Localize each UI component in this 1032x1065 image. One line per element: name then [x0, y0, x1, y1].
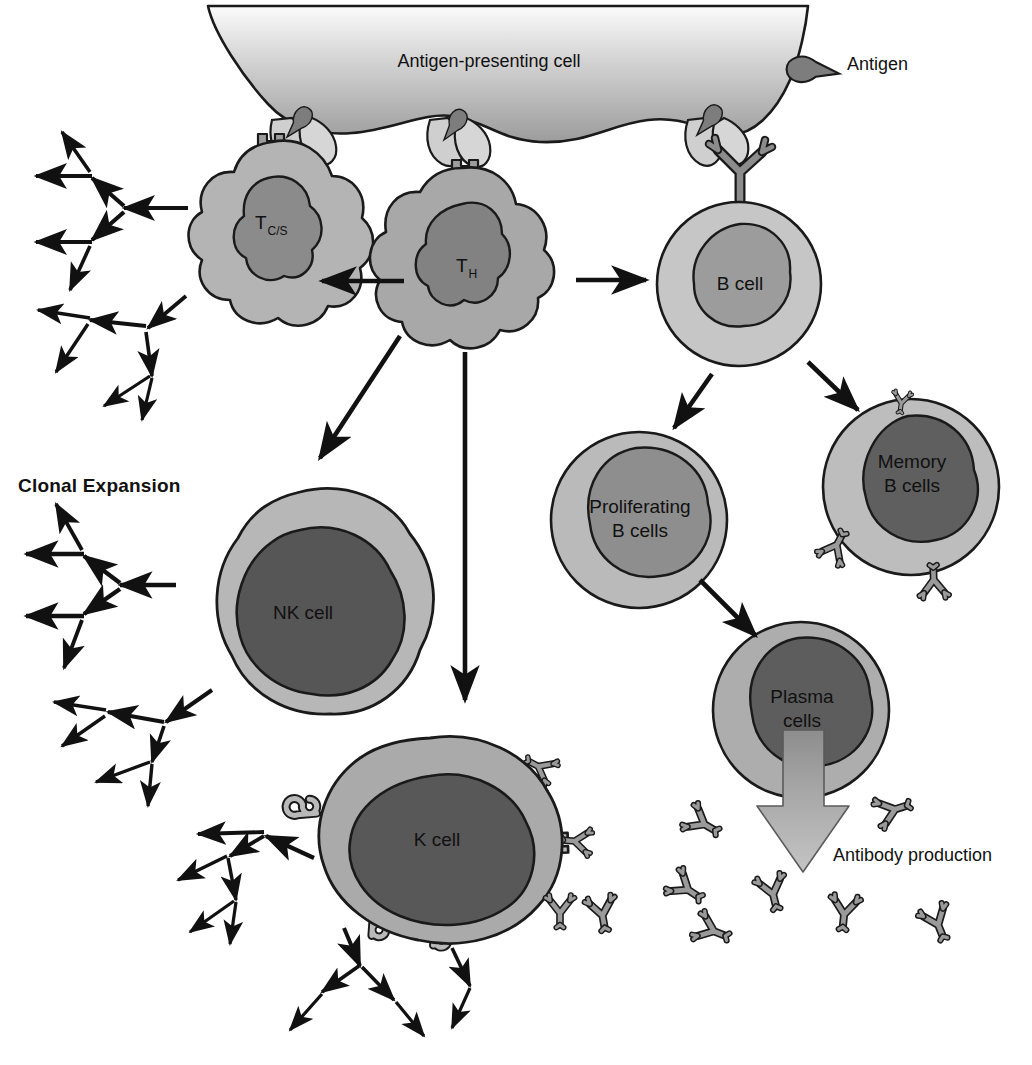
k-cell: K cell [285, 736, 592, 948]
immune-response-diagram: Antigen-presenting cell Antigen [0, 0, 1032, 1065]
legend-antigen-label: Antigen [847, 54, 908, 74]
clonal-expansion-tcs [36, 132, 188, 420]
antibody-icon [691, 910, 734, 951]
legend-antigen: Antigen [787, 54, 908, 82]
arrow-proliferating-to-plasma [700, 580, 756, 636]
antibody-icon [917, 902, 958, 945]
memory-b-cells-label-line1: Memory [878, 451, 947, 472]
clonal-expansion-nk [26, 504, 212, 806]
nk-cell-label: NK cell [273, 602, 333, 623]
arrow-bcell-to-memory [808, 362, 858, 410]
antibody-icon [827, 894, 861, 931]
antibody-icon [680, 802, 725, 845]
antibody-production-label: Antibody production [833, 845, 992, 865]
apc-label: Antigen-presenting cell [397, 51, 580, 71]
antibody-icon [584, 894, 620, 933]
diagram-canvas: Antigen-presenting cell Antigen [0, 0, 1032, 1065]
t-cytotoxic-suppressor-cell: TC/S [189, 141, 374, 326]
k-cell-label: K cell [414, 829, 460, 850]
arrow-bcell-to-proliferating [674, 374, 712, 428]
nk-cell: NK cell [217, 488, 434, 714]
b-cell: B cell [657, 138, 821, 366]
plasma-cells-label-line1: Plasma [770, 686, 834, 707]
memory-b-cells: Memory B cells [816, 390, 999, 598]
hook-receptor-icon [285, 797, 317, 816]
clonal-expansion-label: Clonal Expansion [18, 475, 181, 496]
antibody-icon [754, 872, 792, 913]
antibody-icon [664, 867, 709, 911]
memory-b-cells-label-line2: B cells [884, 475, 940, 496]
proliferating-b-cells-label-line2: B cells [612, 520, 668, 541]
t-helper-cell: TH [370, 167, 554, 348]
plasma-cells-label-line2: cells [783, 710, 821, 731]
antigen-teardrop-icon [787, 57, 840, 82]
arrow-th-to-nk [320, 336, 400, 458]
proliferating-b-cells-label-line1: Proliferating [589, 496, 690, 517]
antibody-icon [872, 790, 914, 829]
antibody-icon [546, 895, 575, 927]
b-cell-label: B cell [717, 273, 763, 294]
